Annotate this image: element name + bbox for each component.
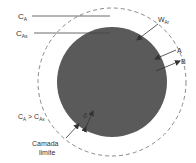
delta-label: δ [83,112,87,119]
war-arrow [137,24,158,40]
war-label: WAr [158,16,170,25]
boundary-layer-label-line1: Camada [32,140,59,147]
ca-label: CA [18,12,28,22]
mass-transfer-diagram: CA CAs WAr A B CA > CAs δ Camada limite [0,0,196,163]
comparison-label: CA > CAs [18,113,45,122]
cas-label: CAs [16,29,28,39]
particle-circle [57,27,167,137]
a-label: A [177,47,182,54]
boundary-layer-label-line2: limite [39,149,55,156]
b-label: B [181,58,186,65]
boundary-layer-arrow [66,124,79,138]
